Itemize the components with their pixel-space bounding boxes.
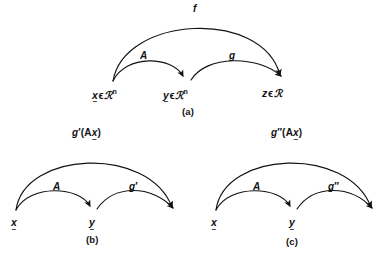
prime-mark: ″ — [334, 181, 339, 192]
paren-open-A: (A — [282, 127, 293, 138]
paren-close: ) — [97, 127, 101, 138]
vector-x: x~ — [92, 128, 98, 138]
node-label-y: y~ϵℛn — [163, 88, 188, 100]
vector-y: y~ — [163, 90, 169, 101]
arc-label-g: g — [229, 51, 235, 61]
node-label-x-b: x~ — [11, 217, 17, 228]
arc-A — [16, 191, 90, 210]
panel-c: g″(Ax~) A g″ x~ y~ (c) — [195, 125, 389, 268]
panel-caption-b: (b) — [86, 235, 99, 245]
figure-canvas: f A g x~ϵℛn y~ϵℛn zϵℛ (a) — [0, 0, 389, 268]
prime-mark: ′ — [135, 181, 137, 192]
tilde-accent: ~ — [164, 98, 169, 106]
arc-label-composite-c: g″(Ax~) — [271, 128, 302, 138]
tilde-accent: ~ — [212, 226, 217, 234]
node-label-x: x~ϵℛn — [92, 88, 117, 100]
arc-g — [191, 61, 281, 80]
arc-composite — [216, 163, 371, 210]
arc-label-A-c: A — [253, 182, 260, 192]
panel-a-arrows — [0, 0, 389, 125]
vector-y: y~ — [289, 217, 295, 228]
vector-x: x~ — [293, 128, 299, 138]
panel-caption-a: (a) — [182, 107, 194, 117]
panel-b-arrows — [0, 125, 195, 268]
set-symbol: ℛ — [274, 87, 282, 99]
node-label-z: zϵℛ — [262, 88, 282, 99]
node-label-y-b: y~ — [89, 217, 95, 228]
exponent: n — [112, 88, 116, 95]
node-label-y-c: y~ — [289, 217, 295, 228]
arc-A — [113, 61, 183, 81]
panel-a: f A g x~ϵℛn y~ϵℛn zϵℛ (a) — [0, 0, 389, 125]
vector-x: x~ — [92, 90, 98, 101]
arc-label-f: f — [193, 4, 197, 14]
tilde-accent: ~ — [90, 226, 95, 234]
tilde-accent: ~ — [93, 98, 98, 106]
tilde-accent: ~ — [12, 226, 17, 234]
arc-label-A: A — [140, 51, 147, 61]
node-label-x-c: x~ — [211, 217, 217, 228]
exponent: n — [183, 88, 187, 95]
tilde-accent: ~ — [290, 226, 295, 234]
arc-A — [216, 191, 290, 210]
arc-label-composite-b: g′(Ax~) — [72, 128, 101, 138]
arc-composite — [16, 163, 172, 210]
vector-y: y~ — [89, 217, 95, 228]
arc-g-double-prime — [297, 191, 372, 210]
vector-x: x~ — [211, 217, 217, 228]
panel-b: g′(Ax~) A g′ x~ y~ (b) — [0, 125, 195, 268]
arc-label-g-double-prime-c: g″ — [328, 182, 339, 192]
paren-open-A: (A — [81, 127, 92, 138]
arc-g-prime — [97, 191, 173, 210]
paren-close: ) — [299, 127, 303, 138]
vector-x: x~ — [11, 217, 17, 228]
tilde-accent: ~ — [294, 136, 299, 144]
arc-label-g-prime-b: g′ — [129, 182, 138, 192]
panel-caption-c: (c) — [286, 237, 298, 247]
tilde-accent: ~ — [92, 136, 97, 144]
arc-label-A-b: A — [53, 182, 60, 192]
